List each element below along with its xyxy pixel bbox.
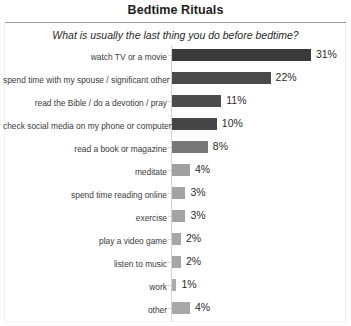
- bar-value-label: 2%: [186, 255, 201, 267]
- bar-value-label: 3%: [190, 186, 205, 198]
- bar: [172, 233, 181, 245]
- bar: [172, 210, 185, 222]
- category-label: exercise: [3, 212, 167, 224]
- bar-row: read the Bible / do a devotion / pray11%: [0, 95, 351, 118]
- bar: [172, 279, 176, 291]
- category-label: spend time reading online: [3, 189, 167, 201]
- category-label: read a book or magazine: [3, 143, 167, 155]
- bar-value-label: 4%: [195, 301, 210, 313]
- chart-container: Bedtime Rituals What is usually the last…: [0, 0, 351, 326]
- axis-tick: [168, 55, 171, 56]
- bar-row: read a book or magazine8%: [0, 141, 351, 164]
- bar-value-label: 3%: [190, 209, 205, 221]
- category-label: meditate: [3, 166, 167, 178]
- axis-tick: [168, 170, 171, 171]
- bar: [172, 49, 311, 61]
- bar-row: play a video game2%: [0, 233, 351, 256]
- bar-value-label: 11%: [226, 94, 246, 106]
- title-divider: [5, 22, 346, 23]
- category-label: work: [3, 281, 167, 293]
- bar-value-label: 4%: [195, 163, 210, 175]
- bar-value-label: 22%: [276, 71, 297, 83]
- bar-value-label: 8%: [213, 140, 228, 152]
- axis-tick: [168, 101, 171, 102]
- bar: [172, 118, 217, 130]
- bar-row: other4%: [0, 302, 351, 325]
- category-label: listen to music: [3, 258, 167, 270]
- bar-value-label: 10%: [222, 117, 243, 129]
- bar-row: spend time with my spouse / significant …: [0, 72, 351, 95]
- axis-tick: [168, 262, 171, 263]
- bar-row: listen to music2%: [0, 256, 351, 279]
- axis-tick: [168, 193, 171, 194]
- bar: [172, 302, 190, 314]
- bar: [172, 164, 190, 176]
- bar-value-label: 31%: [316, 48, 337, 60]
- bar-row: meditate4%: [0, 164, 351, 187]
- chart-subtitle: What is usually the last thing you do be…: [0, 29, 351, 41]
- bar: [172, 141, 208, 153]
- axis-tick: [168, 239, 171, 240]
- bar-value-label: 1%: [181, 278, 196, 290]
- bar-row: exercise3%: [0, 210, 351, 233]
- bar: [172, 95, 221, 107]
- bar-row: work1%: [0, 279, 351, 302]
- bar-value-label: 2%: [186, 232, 201, 244]
- bar-row: spend time reading online3%: [0, 187, 351, 210]
- bar-row: check social media on my phone or comput…: [0, 118, 351, 141]
- category-label: spend time with my spouse / significant …: [3, 74, 167, 86]
- category-label: watch TV or a movie: [3, 51, 167, 63]
- axis-tick: [168, 147, 171, 148]
- bar: [172, 72, 271, 84]
- chart-title: Bedtime Rituals: [0, 3, 351, 17]
- axis-tick: [168, 308, 171, 309]
- plot-area: watch TV or a movie31%spend time with my…: [0, 45, 351, 323]
- axis-tick: [168, 285, 171, 286]
- bar: [172, 187, 185, 199]
- category-label: check social media on my phone or comput…: [3, 120, 167, 132]
- category-label: read the Bible / do a devotion / pray: [3, 97, 167, 109]
- category-label: other: [3, 304, 167, 316]
- axis-tick: [168, 216, 171, 217]
- bar-row: watch TV or a movie31%: [0, 49, 351, 72]
- bar: [172, 256, 181, 268]
- category-label: play a video game: [3, 235, 167, 247]
